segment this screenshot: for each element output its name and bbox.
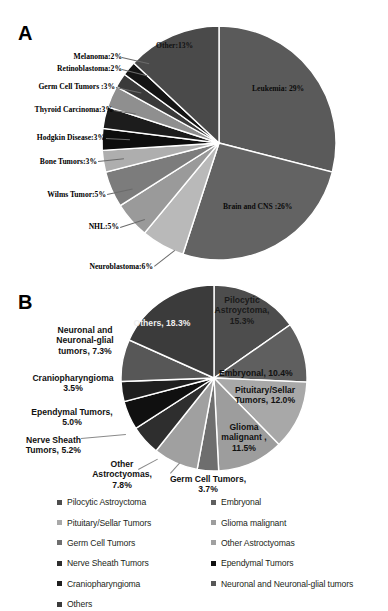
legend-item-label: Nerve Sheath Tumors — [67, 558, 149, 568]
legend-item-label: Others — [67, 599, 92, 609]
legend-item: Embryonal — [211, 492, 388, 512]
legend-item-label: Embryonal — [221, 497, 261, 507]
slice-label-nerve-sheath-tumors: Nerve Sheath Tumors, 5.2% — [1, 435, 81, 456]
legend-item: Pituitary/Sellar Tumors — [57, 512, 217, 532]
slice-label-retinoblastoma: Retinoblastoma:2% — [2, 64, 122, 73]
legend-item-label: Other Astroctyomas — [221, 538, 295, 548]
legend-item: Craniopharyngioma — [57, 574, 217, 594]
legend-swatch-icon — [57, 602, 62, 607]
slice-label-neuronal-glial: Neuronal and Neuronal-glial tumors, 7.3% — [44, 325, 126, 356]
legend-item-label: Ependymal Tumors — [221, 558, 293, 568]
legend-item: Neuronal and Neuronal-glial tumors — [211, 574, 388, 594]
slice-label-nhl: NHL:5% — [0, 222, 119, 231]
legend-swatch-icon — [211, 561, 216, 566]
panel-b-letter: B — [18, 291, 32, 314]
slice-label-neuroblastoma: Neuroblastoma:6% — [20, 262, 153, 271]
legend-item-label: Pilocytic Astroyctoma — [67, 497, 146, 507]
legend-item: Glioma malignant — [211, 512, 388, 532]
legend-item-label: Germ Cell Tumors — [67, 538, 135, 548]
legend-item: Others — [57, 594, 217, 611]
slice-label-brain-and-cns: Brain and CNS :26% — [223, 202, 333, 211]
legend-item: Pilocytic Astroyctoma — [57, 492, 217, 512]
slice-label-leukemia: Leukemia: 29% — [252, 84, 342, 93]
legend-swatch-icon — [57, 561, 62, 566]
legend-swatch-icon — [57, 581, 62, 586]
legend-swatch-icon — [211, 520, 216, 525]
slice-label-other: Other:13% — [156, 41, 226, 50]
slice-label-bone-tumors: Bone Tumors:3% — [0, 157, 97, 166]
legend-item-label: Craniopharyngioma — [67, 579, 140, 589]
slice-label-thyroid-carcinoma: Thyroid Carcinoma:3% — [0, 105, 113, 114]
slice-label-glioma-malignant: Glioma malignant , 11.5% — [214, 422, 274, 453]
panel-a: A Melanoma:2% Retinoblastoma:2% Germ Cel… — [0, 0, 388, 285]
legend-swatch-icon — [211, 581, 216, 586]
legend-swatch-icon — [57, 500, 62, 505]
legend-item: Other Astroctyomas — [211, 533, 388, 553]
legend-swatch-icon — [57, 520, 62, 525]
slice-label-germ-cell-tumors: Germ Cell Tumors :3% — [0, 82, 115, 91]
legend-swatch-icon — [211, 500, 216, 505]
legend-item-label: Glioma malignant — [221, 518, 286, 528]
panel-b: B Pilocytic Astroyctoma, 15.3% Embryonal… — [0, 285, 388, 490]
legend-column-1: Pilocytic AstroyctomaPituitary/Sellar Tu… — [57, 492, 217, 611]
slice-label-ependymal-tumors: Ependymal Tumors, 5.0% — [22, 407, 122, 428]
slice-label-craniopharyngioma: Craniopharyngioma 3.5% — [22, 373, 124, 394]
legend-item-label: Pituitary/Sellar Tumors — [67, 518, 151, 528]
slice-label-pilocytic-astrocytoma: Pilocytic Astroyctoma, 15.3% — [205, 295, 279, 326]
legend-item: Nerve Sheath Tumors — [57, 553, 217, 573]
slice-label-embryonal: Embryonal, 10.4% — [219, 368, 329, 378]
slice-label-others: Others, 18.3% — [129, 318, 195, 328]
legend-item-label: Neuronal and Neuronal-glial tumors — [221, 579, 353, 589]
slice-label-melanoma: Melanoma:2% — [12, 52, 122, 61]
legend-column-2: EmbryonalGlioma malignantOther Astroctyo… — [211, 492, 388, 594]
slice-label-pituitary-sellar: Pituitary/Sellar Tumors, 12.0% — [235, 385, 325, 406]
chart-legend: Pilocytic AstroyctomaPituitary/Sellar Tu… — [0, 492, 388, 599]
legend-item: Ependymal Tumors — [211, 553, 388, 573]
legend-item: Germ Cell Tumors — [57, 533, 217, 553]
slice-label-hodgkin-disease: Hodgkin Disease:3% — [0, 133, 105, 142]
panel-a-letter: A — [18, 22, 32, 45]
legend-swatch-icon — [57, 540, 62, 545]
slice-label-wilms-tumor: Wilms Tumor:5% — [0, 190, 106, 199]
legend-swatch-icon — [211, 540, 216, 545]
